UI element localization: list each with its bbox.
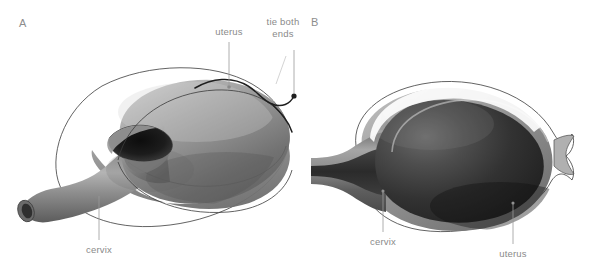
figure-container: A <box>0 0 600 271</box>
panel-a: A <box>15 16 306 255</box>
panel-b-tied-end-right <box>554 135 574 174</box>
panel-b: B <box>311 16 574 259</box>
panel-a-label-tie-line1: tie both <box>267 16 300 27</box>
panel-a-label-cervix: cervix <box>86 244 112 255</box>
panel-a-label-uterus: uterus <box>215 26 243 37</box>
panel-b-label-uterus: uterus <box>499 248 527 259</box>
panel-b-letter: B <box>311 16 319 28</box>
panel-a-label-tie-line2: ends <box>272 28 293 39</box>
panel-a-tie-leader-line-2 <box>276 56 286 84</box>
anatomy-figure-svg: A <box>0 0 600 271</box>
panel-b-label-cervix: cervix <box>370 236 396 247</box>
panel-a-suture-knot-right <box>291 93 296 98</box>
panel-a-letter: A <box>19 17 27 29</box>
